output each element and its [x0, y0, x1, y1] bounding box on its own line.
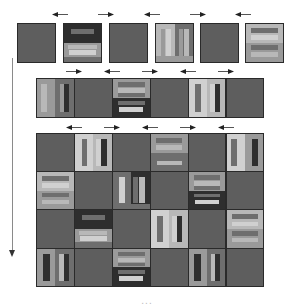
- tile-stripe: [184, 29, 188, 56]
- grid-tile: [226, 171, 265, 210]
- grid-tile: [112, 133, 151, 172]
- row2-tile: [150, 78, 189, 118]
- grid-tile: [74, 171, 113, 210]
- row2-tile: [74, 78, 113, 118]
- tile-stripe: [215, 254, 220, 281]
- tile-stripe: [119, 107, 143, 112]
- arrow-right-icon: [217, 68, 235, 75]
- grid-tile: [188, 133, 227, 172]
- grid-tile: [150, 209, 189, 248]
- tile-stripe: [118, 101, 145, 105]
- tile-stripe: [139, 177, 144, 203]
- tile-stripe: [156, 138, 183, 143]
- tile-stripe: [79, 231, 107, 235]
- tile-stripe: [43, 254, 50, 281]
- arrow-left-icon: [217, 124, 235, 131]
- arrow-left-icon: [234, 11, 252, 18]
- grid-tile: [188, 248, 227, 287]
- tile-stripe: [42, 193, 69, 197]
- tile-stripe: [42, 183, 69, 187]
- row1-tile: [109, 23, 148, 63]
- tile-stripe: [232, 214, 259, 219]
- tile-stripe: [251, 28, 278, 33]
- grid-tile: [112, 248, 151, 287]
- tile-stripe: [42, 200, 69, 204]
- tile-stripe: [231, 139, 237, 166]
- arrow-right-icon: [103, 124, 121, 131]
- tile-stripe: [42, 176, 69, 181]
- arrow-right-icon: [189, 11, 207, 18]
- tile-stripe: [177, 216, 182, 243]
- row1-tile: [155, 23, 194, 63]
- tile-stripe: [118, 93, 145, 97]
- tile-stripe: [64, 57, 101, 62]
- grid-tile: [226, 209, 265, 248]
- grid-tile: [188, 171, 227, 210]
- tile-stripe: [156, 145, 183, 149]
- tile-stripe: [215, 84, 220, 111]
- tile-stripe: [251, 52, 278, 57]
- arrow-left-icon: [103, 68, 121, 75]
- tile-stripe: [194, 181, 221, 185]
- tile-stripe: [118, 82, 145, 87]
- tile-stripe: [157, 161, 182, 165]
- tile-stripe: [69, 50, 96, 55]
- figure-caption: ...: [0, 296, 294, 306]
- tile-stripe: [194, 175, 221, 179]
- tile-stripe: [251, 45, 278, 50]
- tile-stripe: [101, 139, 106, 166]
- grid-tile: [150, 133, 189, 172]
- tile-stripe: [64, 84, 69, 111]
- tile-stripe: [133, 177, 138, 203]
- grid-tile: [36, 171, 75, 210]
- tile-stripe: [194, 194, 221, 198]
- grid-tile: [74, 209, 113, 248]
- tile-stripe: [194, 186, 221, 190]
- grid-tile: [36, 248, 75, 287]
- tile-stripe: [41, 84, 46, 111]
- arrow-left-icon: [143, 11, 161, 18]
- tile-stripe: [195, 84, 201, 111]
- tile-stripe: [156, 56, 193, 62]
- row1-tile: [245, 23, 284, 63]
- arrow-left-icon: [51, 11, 69, 18]
- arrow-left-icon: [65, 124, 83, 131]
- tile-stripe: [232, 222, 259, 226]
- tile-stripe: [239, 139, 243, 166]
- arrow-down-icon: [9, 250, 15, 257]
- row2-tile: [112, 78, 151, 118]
- tile-stripe: [118, 270, 145, 274]
- tile-stripe: [157, 216, 163, 243]
- row2-tile: [226, 78, 265, 118]
- tile-stripe: [118, 252, 145, 256]
- arrow-right-icon: [179, 124, 197, 131]
- vertical-flow-line: [12, 58, 13, 254]
- arrow-right-icon: [97, 11, 115, 18]
- tile-stripe: [68, 45, 96, 49]
- grid-tile: [150, 248, 189, 287]
- tile-stripe: [195, 200, 219, 204]
- grid-tile: [74, 248, 113, 287]
- tile-stripe: [232, 231, 259, 235]
- row1-tile: [200, 23, 239, 63]
- grid-tile: [112, 171, 151, 210]
- grid-tile: [226, 133, 265, 172]
- tile-stripe: [118, 263, 145, 267]
- tile-stripe: [80, 236, 107, 241]
- tile-stripe: [232, 238, 259, 242]
- arrow-left-icon: [141, 124, 159, 131]
- arrow-left-icon: [179, 68, 197, 75]
- grid-tile: [150, 171, 189, 210]
- row2-tile: [188, 78, 227, 118]
- tile-stripe: [161, 29, 165, 56]
- tile-stripe: [82, 139, 88, 166]
- tile-stripe: [82, 215, 106, 220]
- tile-stripe: [251, 35, 278, 40]
- grid-tile: [74, 133, 113, 172]
- grid-tile: [36, 209, 75, 248]
- tile-stripe: [118, 258, 145, 262]
- tile-stripe: [252, 139, 258, 166]
- tile-stripe: [118, 88, 145, 93]
- tile-stripe: [71, 29, 95, 34]
- tile-stripe: [48, 84, 52, 111]
